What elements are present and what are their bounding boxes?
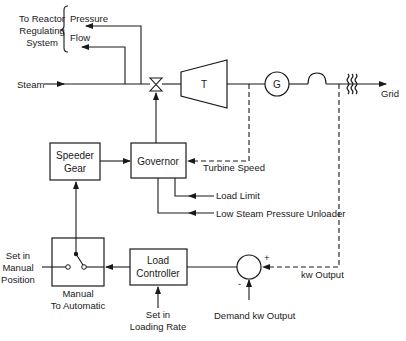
kw-output-arrow bbox=[262, 264, 270, 270]
reactor-label-line3: System bbox=[26, 37, 58, 48]
speeder-gear-block: Speeder Gear bbox=[50, 143, 100, 180]
speeder-gear-line1: Speeder bbox=[56, 150, 94, 161]
reactor-label-line1: To Reactor bbox=[19, 13, 65, 24]
manual-contact-icon bbox=[66, 265, 71, 270]
generator: G bbox=[265, 72, 289, 96]
generator-label: G bbox=[273, 79, 281, 90]
flow-signal-line bbox=[82, 47, 125, 84]
speeder-gear-line2: Gear bbox=[64, 163, 87, 174]
breaker-icon bbox=[308, 73, 326, 84]
low-steam-label: Low Steam Pressure Unloader bbox=[216, 208, 345, 219]
load-controller-block: Load Controller bbox=[130, 249, 187, 285]
manual-position-line2: Manual bbox=[2, 262, 33, 273]
turbine-speed-arrow bbox=[187, 158, 195, 164]
switch-label-line1: Manual bbox=[62, 288, 93, 299]
demand-label: Demand kw Output bbox=[214, 310, 296, 321]
governor-label: Governor bbox=[137, 156, 179, 167]
low-steam-arrow bbox=[188, 210, 196, 216]
control-diagram: To Reactor Regulating System Pressure Fl… bbox=[0, 0, 406, 341]
summer-minus: - bbox=[238, 278, 241, 289]
loading-rate-line2: Loading Rate bbox=[130, 321, 187, 332]
loading-rate-line1: Set in bbox=[146, 309, 170, 320]
turbine: T bbox=[181, 60, 227, 108]
switch-label-line2: To Automatic bbox=[51, 300, 106, 311]
summing-junction: + - bbox=[237, 252, 270, 289]
flow-label: Flow bbox=[70, 32, 90, 43]
steam-valve-icon bbox=[150, 78, 162, 91]
auto-contact-icon bbox=[82, 265, 87, 270]
pressure-label: Pressure bbox=[70, 13, 108, 24]
pressure-signal-line bbox=[86, 26, 141, 84]
load-controller-line2: Controller bbox=[136, 268, 180, 279]
turbine-speed-label: Turbine Speed bbox=[203, 162, 265, 173]
manual-position-line3: Position bbox=[1, 274, 35, 285]
manual-automatic-switch bbox=[42, 238, 104, 286]
load-controller-line1: Load bbox=[147, 255, 169, 266]
reactor-regulating-group: To Reactor Regulating System Pressure Fl… bbox=[19, 6, 141, 84]
load-limit-label: Load Limit bbox=[216, 190, 260, 201]
turbine-label: T bbox=[201, 79, 207, 90]
manual-position-line1: Set in bbox=[6, 250, 30, 261]
kw-output-feedback-line bbox=[265, 84, 339, 267]
grid-label: Grid bbox=[381, 88, 399, 99]
steam-label: Steam bbox=[17, 79, 45, 90]
load-limit-arrow bbox=[188, 193, 196, 199]
summing-junction-icon bbox=[237, 255, 261, 279]
governor-block: Governor bbox=[131, 143, 186, 178]
summer-plus: + bbox=[264, 252, 270, 263]
kw-output-label: kw Output bbox=[301, 269, 344, 280]
reactor-label-line2: Regulating bbox=[19, 25, 64, 36]
load-limit-line bbox=[175, 178, 214, 196]
